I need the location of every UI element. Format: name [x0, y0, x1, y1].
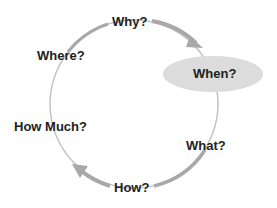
node-when: When?	[193, 66, 236, 81]
node-why: Why?	[112, 14, 147, 29]
node-what: What?	[186, 138, 226, 153]
node-how-much: How Much?	[14, 119, 87, 134]
cycle-ring	[0, 0, 277, 208]
node-where: Where?	[37, 48, 85, 63]
arrow-what-how	[154, 150, 205, 186]
arrow-how-howmuch	[80, 170, 110, 186]
node-how: How?	[114, 180, 149, 195]
